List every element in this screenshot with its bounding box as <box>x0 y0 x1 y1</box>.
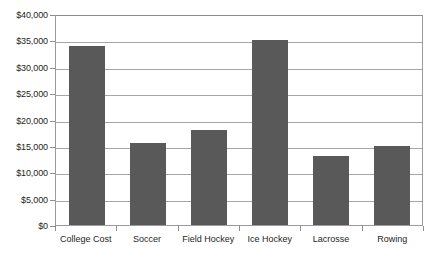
x-axis-ticks <box>55 226 423 232</box>
y-tick-label: $30,000 <box>0 63 48 72</box>
x-category-label: Rowing <box>362 234 423 254</box>
y-tick-mark <box>50 94 55 95</box>
bar-ice-hockey[interactable] <box>252 40 288 225</box>
y-tick-label: $10,000 <box>0 169 48 178</box>
y-tick-label: $20,000 <box>0 116 48 125</box>
y-tick-mark <box>50 68 55 69</box>
bar-slot <box>300 16 361 225</box>
x-tick-mark <box>362 226 363 231</box>
y-tick-mark <box>50 41 55 42</box>
bar-rowing[interactable] <box>374 146 410 225</box>
x-axis-labels: College CostSoccerField HockeyIce Hockey… <box>55 234 423 254</box>
y-tick-label: $35,000 <box>0 37 48 46</box>
plot-area <box>55 15 423 226</box>
y-tick-label: $15,000 <box>0 142 48 151</box>
y-axis-labels: $40,000$35,000$30,000$25,000$20,000$15,0… <box>0 0 48 226</box>
x-category-label: Soccer <box>116 234 177 254</box>
y-tick-mark <box>50 147 55 148</box>
bar-lacrosse[interactable] <box>313 156 349 225</box>
x-tick-mark <box>239 226 240 231</box>
bars-container <box>56 16 422 225</box>
x-tick-mark <box>300 226 301 231</box>
y-tick-mark <box>50 121 55 122</box>
x-tick-mark <box>116 226 117 231</box>
y-tick-mark <box>50 15 55 16</box>
y-tick-mark <box>50 173 55 174</box>
y-tick-label: $25,000 <box>0 90 48 99</box>
bar-slot <box>117 16 178 225</box>
x-tick-mark <box>423 226 424 231</box>
bar-college-cost[interactable] <box>69 46 105 225</box>
bar-slot <box>361 16 422 225</box>
x-category-label: Field Hockey <box>178 234 239 254</box>
bar-field-hockey[interactable] <box>191 130 227 225</box>
bar-slot <box>56 16 117 225</box>
y-tick-mark <box>50 200 55 201</box>
x-category-label: Lacrosse <box>300 234 361 254</box>
x-category-label: Ice Hockey <box>239 234 300 254</box>
y-tick-label: $0 <box>0 222 48 231</box>
x-tick-mark <box>178 226 179 231</box>
bar-slot <box>239 16 300 225</box>
bar-slot <box>178 16 239 225</box>
x-category-label: College Cost <box>55 234 116 254</box>
bar-soccer[interactable] <box>130 143 166 225</box>
y-tick-label: $5,000 <box>0 195 48 204</box>
y-tick-mark <box>50 226 55 227</box>
y-tick-label: $40,000 <box>0 11 48 20</box>
x-tick-mark <box>55 226 56 231</box>
bar-chart: $40,000$35,000$30,000$25,000$20,000$15,0… <box>0 0 428 260</box>
